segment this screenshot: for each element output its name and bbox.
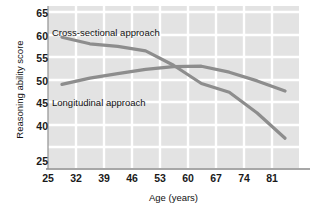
x-tick-label-8: 81 [255,172,289,184]
y-tick-label-4: 45 [22,97,48,109]
y-tick-label-6: 25 [22,155,48,167]
y-tick-label-5: 40 [22,120,48,132]
y-tick-label-3: 50 [22,75,48,87]
cross-sectional-annotation: Cross-sectional approach [52,27,160,38]
y-tick-label-1: 60 [22,30,48,42]
x-axis-title: Age (years) [48,192,299,203]
y-tick-label-0: 65 [22,7,48,19]
longitudinal-annotation: Longitudinal approach [52,97,146,108]
reasoning-ability-line-chart: Reasoning ability score 65 60 55 50 45 4… [0,0,315,212]
y-tick-label-2: 55 [22,52,48,64]
